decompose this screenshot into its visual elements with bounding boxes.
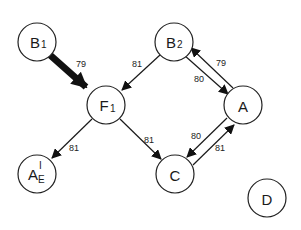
node-b1-label: B xyxy=(30,34,40,51)
node-ae: A I E xyxy=(18,155,56,193)
node-b2-label: B xyxy=(166,34,176,51)
edge-f1-c xyxy=(120,119,161,159)
node-ae-sub: E xyxy=(38,174,45,185)
node-d-label: D xyxy=(262,191,273,208)
node-c: C xyxy=(156,155,194,193)
node-d: D xyxy=(248,179,286,217)
edge-label-c-a: 81 xyxy=(215,143,225,153)
edges: 79 81 80 79 81 81 80 81 xyxy=(50,48,234,165)
node-ae-sup: I xyxy=(39,160,42,171)
node-b1: B 1 xyxy=(18,23,56,61)
node-b1-sub: 1 xyxy=(41,39,47,50)
node-ae-label: A xyxy=(28,166,38,183)
edge-label-a-c: 80 xyxy=(191,131,201,141)
node-b2: B 2 xyxy=(155,23,193,61)
node-c-label: C xyxy=(170,167,181,184)
edge-label-b2-a: 80 xyxy=(194,74,204,84)
node-f1: F 1 xyxy=(87,86,125,124)
nodes: B 1 B 2 F 1 A A I E C D xyxy=(18,23,286,217)
graph-canvas: 79 81 80 79 81 81 80 81 B 1 B 2 xyxy=(0,0,301,230)
edge-label-b1-f1: 79 xyxy=(76,59,86,69)
node-f1-label: F xyxy=(99,97,108,114)
node-a-label: A xyxy=(238,98,248,115)
node-b2-sub: 2 xyxy=(177,39,183,50)
edge-label-f1-ae: 81 xyxy=(69,143,79,153)
node-a: A xyxy=(224,86,262,124)
edge-label-a-b2: 79 xyxy=(216,58,226,68)
edge-label-f1-c: 81 xyxy=(144,135,154,145)
edge-label-b2-f1: 81 xyxy=(132,59,142,69)
node-f1-sub: 1 xyxy=(110,103,116,114)
